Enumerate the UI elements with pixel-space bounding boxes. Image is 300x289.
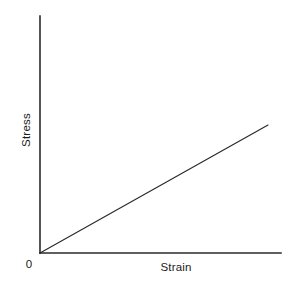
x-axis-label: Strain	[0, 261, 300, 273]
y-axis-label: Stress	[20, 113, 32, 147]
stress-strain-figure: 0 Strain Stress	[0, 0, 300, 289]
plot-area	[0, 0, 300, 289]
figure-background	[0, 0, 300, 289]
